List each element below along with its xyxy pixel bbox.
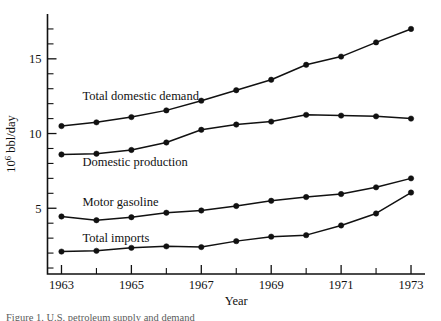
data-point	[303, 232, 308, 237]
data-point	[408, 26, 413, 31]
data-point	[94, 120, 99, 125]
data-point	[338, 223, 343, 228]
data-point	[303, 194, 308, 199]
data-point	[373, 40, 378, 45]
figure-container: 51015196319651967196919711973Year106 bbl…	[0, 0, 441, 321]
x-tick-label: 1969	[259, 278, 284, 292]
data-point	[234, 122, 239, 127]
figure-caption: Figure 1. U.S. petroleum supply and dema…	[6, 312, 195, 321]
data-point	[373, 211, 378, 216]
data-point	[199, 208, 204, 213]
data-point	[269, 77, 274, 82]
x-tick-label: 1973	[399, 278, 424, 292]
data-point	[94, 248, 99, 253]
data-point	[373, 114, 378, 119]
data-point	[129, 114, 134, 119]
y-tick-label: 10	[29, 127, 42, 141]
x-tick-label: 1963	[49, 278, 74, 292]
series-label: Total domestic demand	[82, 89, 199, 103]
y-axis-title: 106 bbl/day	[3, 115, 18, 173]
series-label: Domestic production	[82, 155, 188, 169]
series-line-1	[61, 29, 411, 126]
series-label: Motor gasoline	[82, 195, 158, 209]
line-chart: 51015196319651967196919711973Year106 bbl…	[0, 0, 441, 321]
data-point	[338, 191, 343, 196]
data-point	[234, 88, 239, 93]
data-point	[199, 127, 204, 132]
x-tick-label: 1971	[329, 278, 354, 292]
data-point	[269, 234, 274, 239]
data-point	[94, 218, 99, 223]
x-axis-title: Year	[225, 294, 249, 308]
data-point	[408, 190, 413, 195]
data-point	[59, 249, 64, 254]
data-point	[303, 112, 308, 117]
data-point	[338, 54, 343, 59]
data-point	[234, 238, 239, 243]
data-point	[303, 62, 308, 67]
data-point	[59, 152, 64, 157]
data-point	[269, 119, 274, 124]
data-point	[164, 210, 169, 215]
data-point	[373, 185, 378, 190]
y-tick-label: 5	[35, 202, 41, 216]
series-line-2	[61, 115, 411, 155]
data-point	[59, 214, 64, 219]
data-point	[199, 244, 204, 249]
data-point	[234, 203, 239, 208]
data-point	[59, 123, 64, 128]
svg-text:106 bbl/day: 106 bbl/day	[3, 115, 18, 173]
series-label: Total imports	[82, 231, 149, 245]
data-point	[408, 116, 413, 121]
data-point	[129, 215, 134, 220]
data-point	[164, 140, 169, 145]
data-point	[408, 176, 413, 181]
x-tick-label: 1965	[119, 278, 144, 292]
x-tick-label: 1967	[189, 278, 214, 292]
data-point	[129, 245, 134, 250]
data-point	[164, 244, 169, 249]
y-tick-label: 15	[29, 52, 42, 66]
data-point	[164, 108, 169, 113]
data-point	[199, 98, 204, 103]
data-point	[269, 198, 274, 203]
data-point	[338, 113, 343, 118]
data-point	[129, 147, 134, 152]
